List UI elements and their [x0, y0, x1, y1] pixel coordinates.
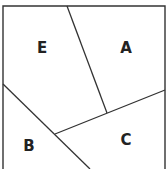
region-label-a: A — [120, 39, 132, 57]
region-label-e: E — [37, 39, 47, 57]
region-label-b: B — [23, 137, 34, 155]
divider-e-a — [67, 6, 107, 113]
region-label-c: C — [120, 131, 131, 149]
divider-c-top — [55, 90, 165, 134]
divider-b-diagonal — [3, 84, 90, 169]
partition-diagram: E A B C — [0, 0, 168, 169]
